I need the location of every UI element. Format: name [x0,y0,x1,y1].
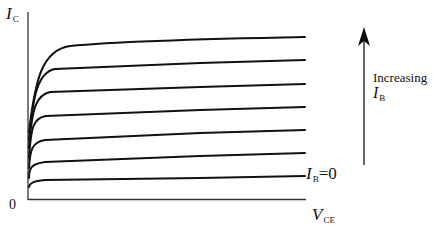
characteristic-curves-plot [0,0,438,229]
curve-ib-3 [29,107,305,158]
curve-ib-1 [29,153,305,178]
increasing-ib-label: IB [373,84,385,103]
x-axis-label: VCE [312,205,335,225]
ib-zero-label: IB=0 [306,164,337,184]
curve-ib-2 [29,130,305,168]
increasing-label: Increasing [373,70,427,85]
origin-label: 0 [9,197,16,213]
curve-ib-0 [29,176,305,187]
curve-ib-5 [29,60,305,140]
y-axis-label: IC [6,4,19,24]
